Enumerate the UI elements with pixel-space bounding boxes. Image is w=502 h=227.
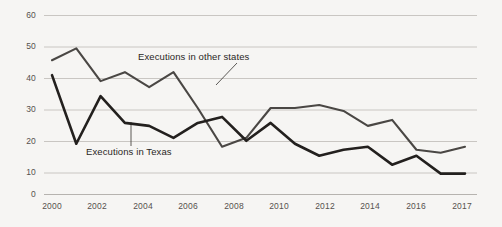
y-axis-tick-40: 40	[14, 73, 36, 83]
x-axis-tick-2000: 2000	[32, 201, 72, 211]
x-axis-tick-2006: 2006	[168, 201, 208, 211]
x-axis-tick-2017: 2017	[442, 201, 482, 211]
x-axis-tick-2012: 2012	[305, 201, 345, 211]
series-line-other-states	[52, 48, 465, 152]
y-axis-tick-20: 20	[14, 136, 36, 146]
y-axis-tick-10: 10	[14, 167, 36, 177]
y-axis-tick-0: 0	[14, 189, 36, 199]
x-axis-tick-2002: 2002	[77, 201, 117, 211]
series-label-texas: Executions in Texas	[86, 146, 172, 157]
y-axis-tick-30: 30	[14, 104, 36, 114]
x-axis-tick-2014: 2014	[350, 201, 390, 211]
x-axis-tick-2004: 2004	[123, 201, 163, 211]
x-axis-tick-2016: 2016	[396, 201, 436, 211]
x-axis-tick-2008: 2008	[214, 201, 254, 211]
series-label-other-states: Executions in other states	[138, 51, 249, 62]
annotation-leader-lines	[131, 63, 237, 146]
leader-line-other-states	[216, 63, 237, 85]
y-axis-tick-60: 60	[14, 10, 36, 20]
y-axis-tick-50: 50	[14, 41, 36, 51]
executions-line-chart: 60 50 40 30 20 10 0 2000 2002 2004 2006 …	[0, 0, 502, 227]
chart-plot-area	[0, 0, 502, 227]
x-axis-tick-2010: 2010	[259, 201, 299, 211]
